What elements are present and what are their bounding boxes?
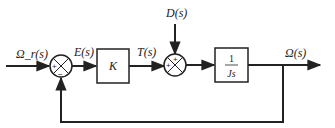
torque-signal-label: T(s) <box>137 45 156 59</box>
error-signal-label: E(s) <box>73 45 94 59</box>
plant-denominator: Js <box>227 68 235 79</box>
summing-junction-2: + + <box>164 54 186 76</box>
sj2-top-plus-sign: + <box>173 55 178 64</box>
input-signal-label: Ω_r(s) <box>16 47 48 61</box>
output-signal-label: Ω(s) <box>285 46 306 60</box>
sj1-plus-sign: + <box>52 62 57 71</box>
summing-junction-1: + − <box>50 55 72 79</box>
controller-gain-label: K <box>108 59 118 73</box>
sj1-minus-sign: − <box>58 70 63 79</box>
plant-numerator: 1 <box>229 53 234 64</box>
sj2-left-plus-sign: + <box>166 61 171 70</box>
block-diagram: Ω_r(s) + − E(s) K T(s) D(s) + + 1 Js Ω(s… <box>0 0 335 128</box>
disturbance-signal-label: D(s) <box>165 6 187 20</box>
